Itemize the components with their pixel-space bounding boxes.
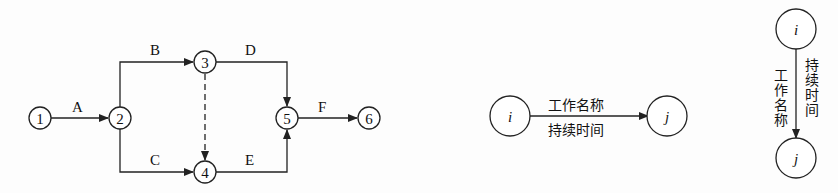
svg-text:3: 3 [201, 55, 209, 71]
node-6: 6 [358, 107, 380, 129]
legend-h-start-node: i [508, 109, 512, 125]
diagram-canvas: A B C D E F 1 2 3 4 5 6 [0, 0, 838, 193]
network-diagram: A B C D E F 1 2 3 4 5 6 [0, 0, 838, 193]
edge-b [120, 62, 193, 107]
label-c: C [150, 152, 160, 168]
node-1: 1 [29, 107, 51, 129]
edge-d [216, 62, 287, 106]
label-a: A [72, 99, 83, 115]
legend-horizontal: i j 工作名称 持续时间 [490, 96, 687, 138]
node-5: 5 [276, 107, 298, 129]
label-e: E [245, 152, 254, 168]
node-4: 4 [194, 161, 216, 183]
legend-v-duration: 持续时间 [803, 58, 819, 118]
svg-text:1: 1 [36, 111, 44, 127]
label-b: B [150, 42, 160, 58]
svg-text:2: 2 [116, 111, 124, 127]
legend-h-duration: 持续时间 [548, 122, 604, 138]
svg-text:6: 6 [365, 111, 373, 127]
node-2: 2 [109, 107, 131, 129]
svg-text:5: 5 [283, 111, 291, 127]
label-f: F [318, 99, 326, 115]
legend-vertical: i j 工作名称 持续时间 [772, 9, 819, 178]
legend-v-work-name: 工作名称 [772, 68, 788, 128]
legend-h-work-name: 工作名称 [548, 97, 604, 113]
svg-text:4: 4 [201, 165, 209, 181]
network-edges [51, 62, 357, 172]
legend-v-start-node: i [794, 22, 798, 38]
node-3: 3 [194, 51, 216, 73]
label-d: D [245, 42, 256, 58]
